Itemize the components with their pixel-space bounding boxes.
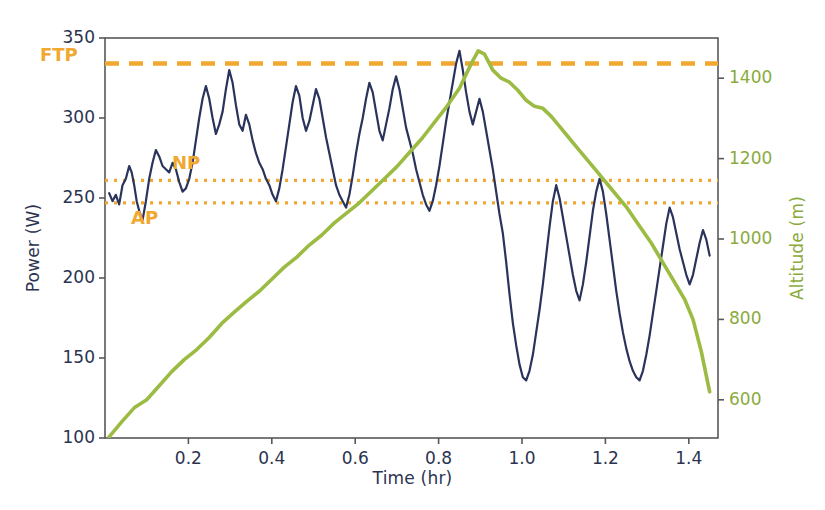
y-tick-label-left: 150 xyxy=(35,347,95,367)
data-series xyxy=(109,51,709,437)
y-tick-label-left: 100 xyxy=(35,427,95,447)
x-tick-label: 0.2 xyxy=(158,448,218,468)
y-tick-label-right: 800 xyxy=(729,308,789,328)
x-tick-label: 1.2 xyxy=(575,448,635,468)
y-tick-label-left: 200 xyxy=(35,267,95,287)
series-line-altitude xyxy=(109,51,709,437)
tick-marks xyxy=(99,38,724,444)
y-tick-label-left: 300 xyxy=(35,107,95,127)
threshold-label-np: NP xyxy=(172,152,200,173)
x-tick-label: 0.6 xyxy=(325,448,385,468)
series-line-power xyxy=(109,51,709,381)
x-tick-label: 0.8 xyxy=(409,448,469,468)
chart-canvas xyxy=(0,0,825,510)
x-axis-label: Time (hr) xyxy=(0,468,825,488)
y-tick-label-right: 1400 xyxy=(729,67,789,87)
chart-figure: Power (W) Altitude (m) Time (hr) 1001502… xyxy=(0,0,825,510)
axes-frame xyxy=(105,38,718,438)
y-tick-label-left: 250 xyxy=(35,187,95,207)
y-tick-label-right: 600 xyxy=(729,389,789,409)
x-tick-label: 1.0 xyxy=(492,448,552,468)
y-tick-label-right: 1200 xyxy=(729,148,789,168)
threshold-label-ap: AP xyxy=(131,207,158,228)
y-tick-label-right: 1000 xyxy=(729,228,789,248)
x-tick-label: 1.4 xyxy=(659,448,719,468)
x-tick-label: 0.4 xyxy=(242,448,302,468)
plot-border xyxy=(105,38,718,438)
y-axis-label-right: Altitude (m) xyxy=(787,168,807,328)
threshold-label-ftp: FTP xyxy=(40,44,78,65)
